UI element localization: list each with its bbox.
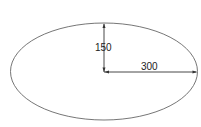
semi-minor-label: 150 xyxy=(95,42,112,53)
arrowhead-left-icon xyxy=(105,71,110,74)
arrowhead-up-icon xyxy=(103,24,106,29)
ellipse-diagram: 150 300 xyxy=(0,0,201,127)
semi-major-label: 300 xyxy=(141,61,158,72)
arrowhead-down-icon xyxy=(103,68,106,73)
arrowhead-right-icon xyxy=(193,71,198,74)
